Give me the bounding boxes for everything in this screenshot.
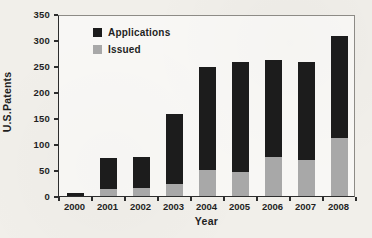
- y-tick-mark-150: [54, 118, 58, 120]
- issued-swatch-icon: [93, 45, 102, 54]
- legend-label-applications: Applications: [108, 27, 170, 38]
- bar-issued-2002: [133, 188, 150, 196]
- legend-label-issued: Issued: [108, 44, 141, 55]
- y-tick-mark-200: [54, 92, 58, 94]
- y-tick-mark-50: [54, 170, 58, 172]
- y-tick-label-300: 300: [16, 36, 50, 46]
- x-tick-label-2000: 2000: [58, 201, 91, 212]
- y-tick-label-100: 100: [16, 140, 50, 150]
- y-axis-title: U.S.Patents: [1, 32, 13, 172]
- y-tick-mark-300: [54, 40, 58, 42]
- y-tick-mark-350: [54, 14, 58, 16]
- legend: Applications Issued: [93, 27, 170, 55]
- y-tick-label-150: 150: [16, 114, 50, 124]
- x-tick-label-2003: 2003: [157, 201, 190, 212]
- y-tick-label-50: 50: [16, 166, 50, 176]
- bar-issued-2001: [100, 189, 117, 196]
- legend-item-applications: Applications: [93, 27, 170, 38]
- applications-swatch-icon: [93, 28, 102, 37]
- x-tick-label-2001: 2001: [91, 201, 124, 212]
- bar-issued-2008: [331, 138, 348, 196]
- x-axis-title: Year: [58, 215, 355, 227]
- y-tick-label-350: 350: [16, 10, 50, 20]
- x-tick-label-2008: 2008: [322, 201, 355, 212]
- patents-bar-chart-figure: Applications Issued 05010015020025030035…: [0, 0, 372, 238]
- plot-area: Applications Issued: [58, 15, 355, 197]
- bar-issued-2006: [265, 157, 282, 196]
- bar-issued-2003: [166, 184, 183, 196]
- x-tick-label-2002: 2002: [124, 201, 157, 212]
- y-tick-label-0: 0: [16, 192, 50, 202]
- x-tick-label-2006: 2006: [256, 201, 289, 212]
- y-tick-mark-100: [54, 144, 58, 146]
- bar-issued-2005: [232, 172, 249, 196]
- y-tick-label-200: 200: [16, 88, 50, 98]
- y-tick-mark-250: [54, 66, 58, 68]
- legend-item-issued: Issued: [93, 44, 170, 55]
- x-tick-mark-9: [355, 197, 357, 201]
- bar-applications-2000: [67, 193, 84, 196]
- x-tick-label-2005: 2005: [223, 201, 256, 212]
- y-tick-label-250: 250: [16, 62, 50, 72]
- x-tick-label-2004: 2004: [190, 201, 223, 212]
- x-tick-label-2007: 2007: [289, 201, 322, 212]
- bar-issued-2007: [298, 160, 315, 196]
- bar-issued-2004: [199, 170, 216, 196]
